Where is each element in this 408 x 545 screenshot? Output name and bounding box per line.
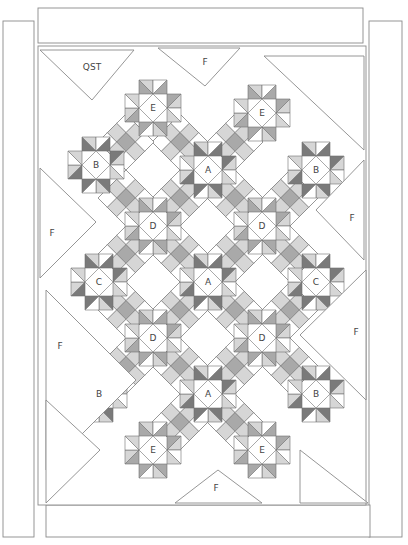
left-border xyxy=(3,21,34,537)
block-label: D xyxy=(150,333,157,343)
setting-label: F xyxy=(349,213,354,223)
setting-label: F xyxy=(213,483,218,493)
block-label: B xyxy=(313,165,319,175)
block-label: C xyxy=(313,277,319,287)
block-label: D xyxy=(150,221,157,231)
block-label: E xyxy=(150,103,156,113)
block-label: E xyxy=(150,445,156,455)
block-label: B xyxy=(93,160,99,170)
top-border xyxy=(38,8,363,43)
block-label: B xyxy=(96,389,102,399)
block-label: A xyxy=(205,389,212,399)
quilt-assembly-diagram: EEBABDDCACDDBABEEQSTFFFFFF xyxy=(0,0,408,545)
setting-label: F xyxy=(49,228,54,238)
bottom-border xyxy=(46,505,370,537)
block-label: E xyxy=(259,108,265,118)
block-label: A xyxy=(205,277,212,287)
block-label: A xyxy=(205,165,212,175)
block-label: D xyxy=(259,333,266,343)
setting-label: F xyxy=(57,341,62,351)
block-label: B xyxy=(313,389,319,399)
setting-label: F xyxy=(202,57,207,67)
block-label: E xyxy=(259,445,265,455)
setting-label: F xyxy=(353,327,358,337)
setting-label: QST xyxy=(83,62,102,72)
block-label: D xyxy=(259,221,266,231)
block-label: C xyxy=(96,277,102,287)
right-border xyxy=(369,21,402,537)
